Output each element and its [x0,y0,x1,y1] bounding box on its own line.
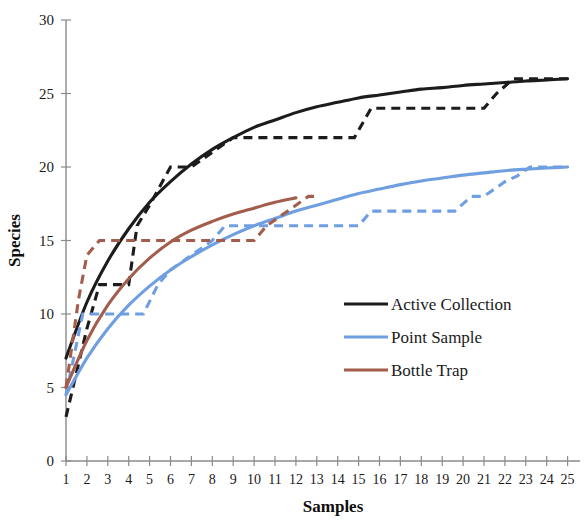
x-tick-label: 3 [104,472,111,487]
x-tick-label: 20 [456,472,470,487]
x-tick-label: 17 [393,472,407,487]
x-tick-label: 12 [289,472,303,487]
legend-item[interactable]: Point Sample [344,328,482,347]
y-tick-label: 20 [39,159,54,175]
x-tick-label: 9 [230,472,237,487]
legend-label-0: Active Collection [391,295,512,314]
x-tick-label: 11 [268,472,281,487]
series-line-2 [66,167,568,395]
series-line-3 [66,167,568,395]
chart-legend: Active CollectionPoint SampleBottle Trap [344,295,512,380]
x-tick-label: 23 [519,472,533,487]
series-line-1 [66,79,568,417]
x-tick-label: 14 [331,472,345,487]
legend-label-1: Point Sample [391,328,482,347]
x-tick-label: 4 [125,472,132,487]
x-tick-label: 22 [498,472,512,487]
y-axis-title: Species [5,214,24,267]
y-tick-label: 15 [39,233,54,249]
y-tick-label: 10 [39,306,54,322]
x-tick-label: 19 [435,472,449,487]
series-lines [66,79,568,417]
y-tick-label: 5 [47,380,55,396]
x-tick-label: 21 [477,472,491,487]
x-tick-label: 25 [561,472,575,487]
x-axis-title: Samples [303,497,364,516]
x-tick-label: 8 [209,472,216,487]
x-tick-label: 15 [352,472,366,487]
x-tick-label: 16 [373,472,387,487]
y-tick-label: 25 [39,86,54,102]
legend-label-2: Bottle Trap [391,361,468,380]
y-tick-label: 0 [47,453,55,469]
x-tick-label: 24 [540,472,554,487]
x-tick-label: 7 [188,472,195,487]
y-tick-label: 30 [39,12,54,28]
x-tick-label: 5 [146,472,153,487]
x-tick-label: 13 [310,472,324,487]
legend-item[interactable]: Bottle Trap [344,361,468,380]
x-tick-label: 1 [63,472,70,487]
x-tick-label: 18 [414,472,428,487]
axis-labels: 0510152025301234567891011121314151617181… [5,12,575,516]
chart-svg: 0510152025301234567891011121314151617181… [0,0,584,521]
species-accumulation-chart: 0510152025301234567891011121314151617181… [0,0,584,521]
x-tick-label: 6 [167,472,174,487]
x-tick-label: 2 [83,472,90,487]
x-tick-label: 10 [247,472,261,487]
legend-item[interactable]: Active Collection [344,295,512,314]
